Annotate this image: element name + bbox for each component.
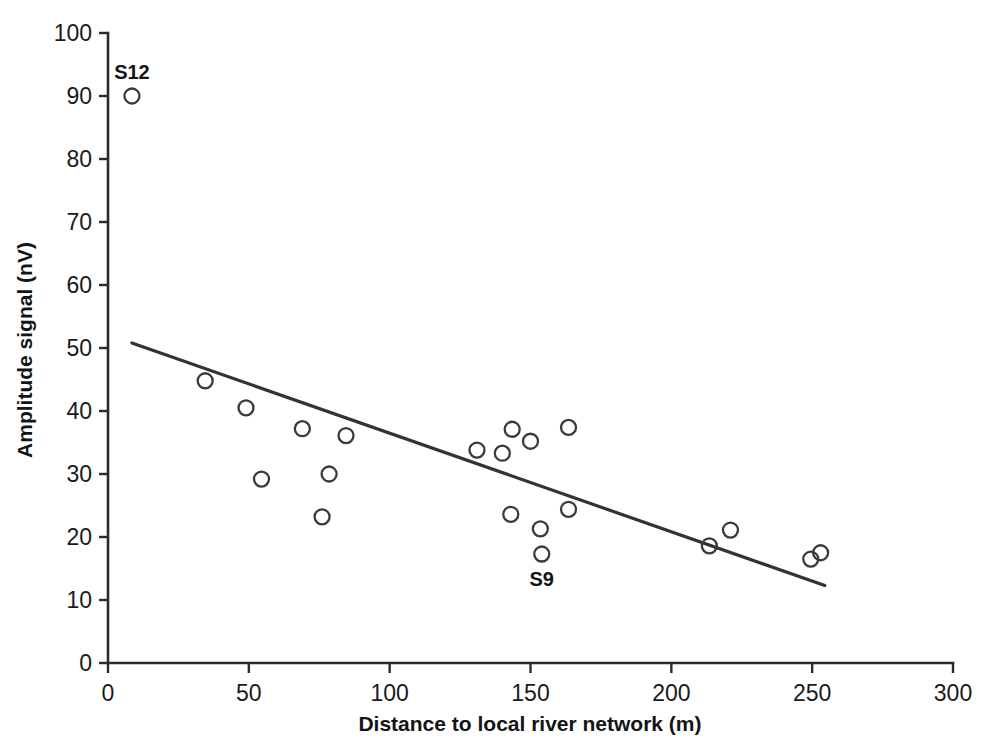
y-tick-label-40: 40	[66, 398, 92, 424]
x-axis-title: Distance to local river network (m)	[358, 712, 701, 735]
y-tick-label-80: 80	[66, 146, 92, 172]
y-tick-label-10: 10	[66, 587, 92, 613]
data-point-7	[339, 428, 354, 443]
y-tick-label-30: 30	[66, 461, 92, 487]
data-point-13	[503, 507, 518, 522]
data-point-14	[533, 521, 548, 536]
y-tick-label-0: 0	[79, 650, 92, 676]
scatter-chart-figure: 0102030405060708090100050100150200250300…	[0, 0, 995, 751]
point-annotations: S12S9	[114, 61, 554, 590]
x-tick-label-150: 150	[511, 680, 549, 706]
data-point-2	[239, 400, 254, 415]
y-tick-label-60: 60	[66, 272, 92, 298]
data-point-0	[124, 89, 139, 104]
data-point-5	[322, 467, 337, 482]
annotation-s9: S9	[530, 568, 554, 590]
data-point-11	[523, 434, 538, 449]
tick-marks	[99, 33, 953, 673]
data-point-15	[534, 547, 549, 562]
x-tick-label-300: 300	[934, 680, 972, 706]
x-tick-label-250: 250	[793, 680, 831, 706]
plot-area: 0102030405060708090100050100150200250300…	[0, 0, 995, 751]
data-point-18	[723, 523, 738, 538]
y-tick-label-70: 70	[66, 209, 92, 235]
data-point-1	[198, 373, 213, 388]
data-point-3	[254, 472, 269, 487]
trend-line	[132, 343, 825, 586]
y-tick-label-50: 50	[66, 335, 92, 361]
x-tick-label-100: 100	[370, 680, 408, 706]
x-tick-label-50: 50	[236, 680, 262, 706]
x-tick-label-0: 0	[102, 680, 115, 706]
y-tick-label-20: 20	[66, 524, 92, 550]
data-point-12	[561, 420, 576, 435]
y-tick-label-90: 90	[66, 83, 92, 109]
data-point-8	[469, 443, 484, 458]
data-point-9	[495, 446, 510, 461]
regression-line	[132, 343, 825, 586]
data-point-10	[505, 422, 520, 437]
x-tick-label-200: 200	[652, 680, 690, 706]
data-point-6	[315, 509, 330, 524]
data-points	[124, 89, 828, 567]
y-axis-title: Amplitude signal (nV)	[13, 242, 36, 458]
data-point-16	[561, 502, 576, 517]
annotation-s12: S12	[114, 61, 150, 83]
y-tick-label-100: 100	[54, 20, 92, 46]
data-point-4	[295, 421, 310, 436]
